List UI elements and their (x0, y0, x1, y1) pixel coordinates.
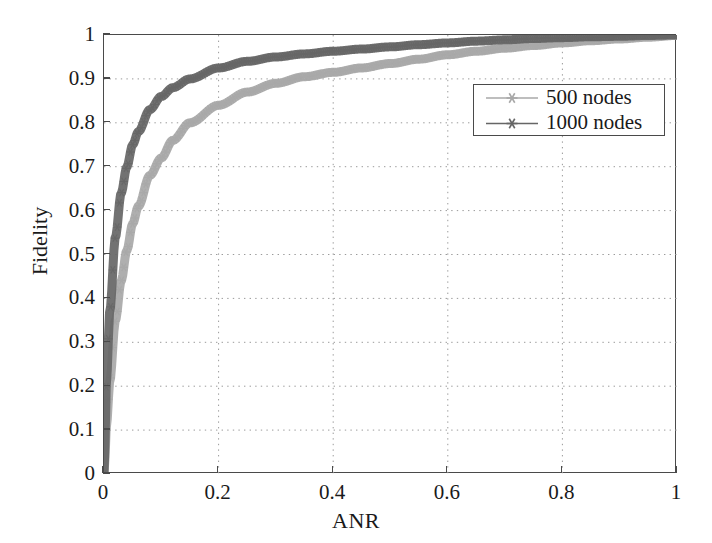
y-tick-mark (103, 33, 110, 34)
y-axis-title: Fidelity (27, 181, 53, 301)
y-tick-mark (103, 77, 110, 78)
y-tick-label: 0.5 (11, 243, 95, 264)
x-tick-label: 0 (98, 482, 109, 503)
x-tick-label: 0.8 (548, 482, 574, 503)
y-tick-label: 0.2 (11, 375, 95, 396)
y-tick-label: 0.4 (11, 287, 95, 308)
x-tick-label: 0.6 (434, 482, 460, 503)
y-tick-label: 0.6 (11, 199, 95, 220)
legend-box: 500 nodes 1000 nodes (473, 84, 665, 136)
legend-item-500-nodes[interactable]: 500 nodes (474, 85, 666, 111)
y-tick-label: 1 (11, 24, 95, 45)
x-tick-mark (217, 466, 218, 473)
x-tick-label: 0.2 (204, 482, 230, 503)
y-tick-label: 0.8 (11, 111, 95, 132)
y-tick-label: 0 (11, 463, 95, 484)
y-tick-mark (103, 209, 110, 210)
x-tick-mark (102, 466, 103, 473)
x-tick-mark (446, 466, 447, 473)
y-tick-label: 0.3 (11, 331, 95, 352)
y-tick-mark (103, 341, 110, 342)
x-tick-label: 0.4 (319, 482, 345, 503)
x-tick-label: 1 (671, 482, 682, 503)
y-tick-label: 0.7 (11, 155, 95, 176)
chart-figure: 00.10.20.30.40.50.60.70.80.9100.20.40.60… (0, 0, 712, 543)
y-tick-label: 0.9 (11, 67, 95, 88)
legend-label-1000-nodes: 1000 nodes (546, 110, 642, 135)
x-tick-mark (561, 466, 562, 473)
y-tick-mark (103, 297, 110, 298)
y-tick-label: 0.1 (11, 419, 95, 440)
y-tick-mark (103, 472, 110, 473)
x-tick-mark (675, 466, 676, 473)
legend-label-500-nodes: 500 nodes (546, 85, 632, 110)
y-tick-mark (103, 165, 110, 166)
y-tick-mark (103, 428, 110, 429)
y-tick-mark (103, 385, 110, 386)
y-tick-mark (103, 253, 110, 254)
y-tick-mark (103, 121, 110, 122)
x-tick-mark (332, 466, 333, 473)
legend-item-1000-nodes[interactable]: 1000 nodes (474, 110, 666, 136)
x-axis-title: ANR (0, 508, 712, 534)
